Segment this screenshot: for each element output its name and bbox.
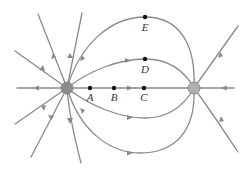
point-labels: A B C D E — [86, 21, 149, 103]
point-b — [112, 86, 116, 90]
left-charge — [61, 82, 73, 94]
label-b: B — [111, 91, 118, 103]
field-line — [194, 88, 238, 152]
labeled-points — [88, 15, 147, 90]
point-c — [142, 86, 146, 90]
label-e: E — [141, 21, 149, 33]
arrow-icon — [33, 86, 39, 91]
right-charge — [188, 82, 200, 94]
connecting-field-lines — [67, 17, 194, 156]
arrow-icon — [127, 115, 133, 120]
arrow-icon — [221, 86, 227, 91]
point-d — [143, 57, 147, 61]
point-a — [88, 86, 92, 90]
arrow-icon — [41, 105, 46, 111]
arrow-icon — [219, 116, 224, 122]
arrow-icon — [125, 58, 131, 63]
field-line-diagram: A B C D E — [0, 0, 251, 172]
field-line-through-d — [67, 59, 194, 88]
axis-field-lines — [17, 86, 234, 91]
label-a: A — [86, 91, 94, 103]
label-c: C — [140, 91, 148, 103]
arrow-icon — [67, 53, 73, 58]
arrow-icon — [80, 108, 85, 114]
field-line-through-e — [67, 17, 194, 88]
label-d: D — [140, 63, 149, 75]
field-line — [31, 88, 67, 157]
field-line — [67, 13, 82, 88]
arrow-icon — [127, 86, 133, 91]
arrow-icon — [127, 151, 133, 156]
field-line — [67, 88, 81, 163]
point-e — [143, 15, 147, 19]
field-line — [194, 26, 238, 88]
right-charge-incoming-lines — [194, 26, 238, 152]
